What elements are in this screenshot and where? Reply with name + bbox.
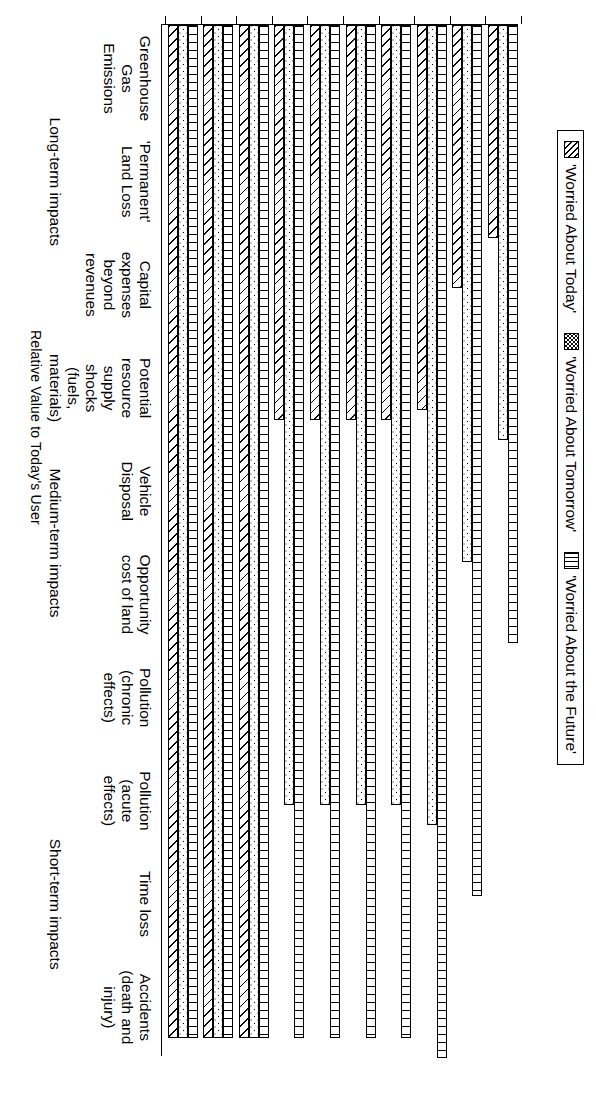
value-axis-title: Relative Value to Today's User: [28, 330, 44, 525]
category-tick: [307, 16, 308, 24]
bar: [284, 25, 294, 805]
category-tick: [272, 16, 273, 24]
bar-group: [168, 25, 198, 1038]
category-label: Accidents (death and injury): [100, 956, 154, 1059]
legend-entry-today: 'Worried About Today': [564, 141, 580, 313]
bar: [274, 25, 284, 420]
bar: [330, 25, 340, 1038]
bar: [188, 25, 198, 1038]
category-tick: [379, 16, 380, 24]
category-label: Vehicle Disposal: [118, 440, 154, 543]
bar: [381, 25, 391, 420]
legend-label-tomorrow: 'Worried About Tomorrow': [564, 356, 580, 532]
category-tick: [236, 16, 237, 24]
bar: [239, 25, 249, 1038]
bar: [178, 25, 188, 1038]
bar: [294, 25, 304, 1038]
bar-group: [239, 25, 269, 1038]
chart-canvas: 'Worried About Today' 'Worried About Tom…: [0, 0, 596, 1094]
chart-legend: 'Worried About Today' 'Worried About Tom…: [558, 130, 585, 765]
category-tick: [201, 16, 202, 24]
bar: [452, 25, 462, 288]
phase-label: Medium-term impacts: [46, 337, 64, 750]
bar: [488, 25, 498, 238]
bar: [437, 25, 447, 1058]
category-label: 'Permanent' Land Loss: [118, 130, 154, 233]
vertical-line-swatch-icon: [564, 552, 579, 569]
bar: [391, 25, 401, 805]
dotted-swatch-icon: [564, 333, 579, 350]
bar: [366, 25, 376, 1038]
bar: [401, 25, 411, 1038]
bar-group: [381, 25, 411, 1038]
bar-group: [488, 25, 518, 1038]
category-label: Time loss: [136, 853, 154, 956]
phase-label: Long-term impacts: [46, 27, 64, 337]
bar: [203, 25, 213, 1038]
bar: [223, 25, 233, 1038]
bar-group: [346, 25, 376, 1038]
bar: [356, 25, 366, 805]
bar: [213, 25, 223, 1038]
bar-group: [274, 25, 304, 1038]
bar: [259, 25, 269, 1038]
category-tick: [414, 16, 415, 24]
bar: [346, 25, 356, 420]
category-label: Opportunity cost of land: [118, 543, 154, 646]
phase-label: Short-term impacts: [46, 749, 64, 1059]
bar: [472, 25, 482, 896]
legend-entry-tomorrow: 'Worried About Tomorrow': [564, 333, 580, 532]
bar-group: [452, 25, 482, 1038]
bar: [168, 25, 178, 1038]
value-axis: [161, 24, 162, 1056]
bar-group: [417, 25, 447, 1038]
bar: [417, 25, 427, 410]
legend-label-today: 'Worried About Today': [564, 164, 580, 313]
category-tick: [165, 16, 166, 24]
category-label: Capital expenses beyond revenues: [82, 233, 154, 336]
bar: [498, 25, 508, 440]
legend-entry-future: 'Worried About the Future': [564, 552, 580, 754]
category-label: Greenhouse Gas Emissions: [100, 27, 154, 130]
bar: [320, 25, 330, 805]
bar: [249, 25, 259, 1038]
bar: [508, 25, 518, 643]
bar-group: [203, 25, 233, 1038]
plot-area: Accidents (death and injury)Time lossPol…: [116, 0, 536, 1094]
bar: [310, 25, 320, 420]
legend-label-future: 'Worried About the Future': [564, 575, 580, 754]
diagonal-hatch-swatch-icon: [564, 141, 579, 158]
category-tick: [343, 16, 344, 24]
bar: [462, 25, 472, 562]
category-tick: [521, 16, 522, 24]
category-tick: [485, 16, 486, 24]
category-label: Pollution (acute effects): [100, 749, 154, 852]
bar-group: [310, 25, 340, 1038]
category-tick: [450, 16, 451, 24]
category-label: Pollution (chronic effects): [100, 646, 154, 749]
bar: [427, 25, 437, 825]
